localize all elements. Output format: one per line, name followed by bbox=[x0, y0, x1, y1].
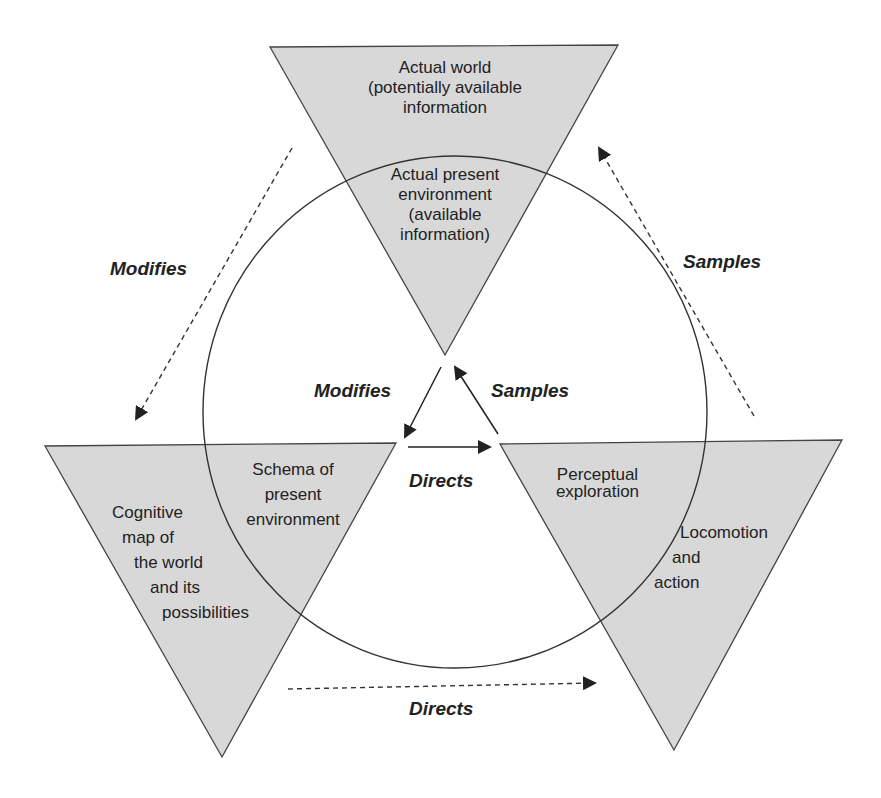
diagram-canvas bbox=[0, 0, 881, 798]
outer-directs-arrow bbox=[288, 683, 595, 689]
node-perceptual-exploration: Perceptual exploration bbox=[540, 466, 655, 500]
label-inner-samples: Samples bbox=[491, 380, 569, 402]
label-inner-directs: Directs bbox=[409, 470, 473, 492]
node-line: Cognitive bbox=[100, 500, 230, 525]
outer-samples-arrow bbox=[599, 148, 754, 416]
node-line: map of bbox=[100, 525, 230, 550]
node-line: and its bbox=[100, 575, 230, 600]
label-inner-modifies: Modifies bbox=[314, 380, 391, 402]
node-line: Perceptual bbox=[540, 466, 655, 483]
node-line: information) bbox=[370, 225, 520, 245]
node-line: environment bbox=[228, 507, 358, 532]
label-outer-directs: Directs bbox=[409, 698, 473, 720]
node-line: exploration bbox=[540, 483, 655, 500]
node-locomotion-action: Locomotion and action bbox=[650, 520, 790, 595]
node-line: Schema of bbox=[228, 457, 358, 482]
node-line: (potentially available bbox=[335, 78, 555, 98]
outer-modifies-arrow bbox=[136, 148, 292, 419]
label-outer-modifies: Modifies bbox=[110, 258, 187, 280]
inner-modifies-arrow bbox=[405, 367, 441, 437]
label-outer-samples: Samples bbox=[683, 251, 761, 273]
node-line: present bbox=[228, 482, 358, 507]
node-actual-present-environment: Actual present environment (available in… bbox=[370, 165, 520, 245]
node-line: possibilities bbox=[100, 600, 230, 625]
node-line: environment bbox=[370, 185, 520, 205]
node-schema-present-environment: Schema of present environment bbox=[228, 457, 358, 532]
node-line: Actual present bbox=[370, 165, 520, 185]
node-line: Actual world bbox=[335, 58, 555, 78]
node-cognitive-map: Cognitive map of the world and its possi… bbox=[100, 500, 230, 625]
node-actual-world: Actual world (potentially available info… bbox=[335, 58, 555, 118]
node-line: and bbox=[650, 545, 790, 570]
node-line: the world bbox=[100, 550, 230, 575]
node-line: Locomotion bbox=[650, 520, 790, 545]
node-line: information bbox=[335, 98, 555, 118]
node-line: action bbox=[650, 570, 790, 595]
node-line: (available bbox=[370, 205, 520, 225]
